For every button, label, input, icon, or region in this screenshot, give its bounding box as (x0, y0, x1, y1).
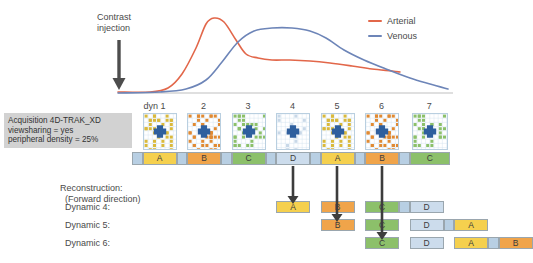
recon-row5-segment-gap-1 (355, 219, 366, 231)
recon-row5-segment-a: A (454, 219, 488, 231)
recon-row6-segment-gap-1 (399, 237, 410, 249)
recon-row4-segment-gap-3 (355, 201, 366, 213)
recon-row4-segment-gap-1 (310, 201, 321, 213)
recon-row4-segment-d: D (410, 201, 444, 213)
flow-arrow-a (330, 166, 344, 222)
reconstruction-row-label-5: Dynamic 5: (65, 220, 110, 230)
recon-row5-segment-gap-3 (399, 219, 410, 231)
reconstruction-row-label-6: Dynamic 6: (65, 238, 110, 248)
recon-row6-segment-gap-5 (488, 237, 499, 249)
recon-row5-segment-d: D (410, 219, 444, 231)
flow-arrow-d (286, 166, 300, 204)
recon-row4-segment-gap-5 (399, 201, 410, 213)
recon-row6-segment-d: D (410, 237, 444, 249)
recon-row6-segment-gap-3 (444, 237, 455, 249)
reconstruction-row-label-4: Dynamic 4: (65, 202, 110, 212)
flow-arrow-b (375, 166, 389, 240)
recon-row6-segment-b: B (499, 237, 533, 249)
recon-row6-segment-a: A (454, 237, 488, 249)
recon-row5-segment-gap-5 (444, 219, 455, 231)
